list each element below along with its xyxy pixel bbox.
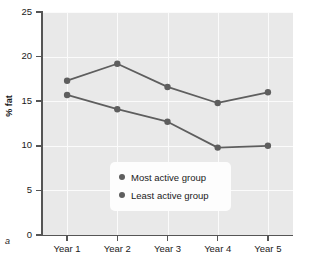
y-tick-mark xyxy=(36,190,41,192)
legend-item: Least active group xyxy=(119,186,231,204)
x-tick-mark xyxy=(217,236,219,241)
y-tick-mark xyxy=(36,56,41,58)
y-tick-mark xyxy=(36,100,41,102)
panel-letter: a xyxy=(5,236,10,247)
x-tick-mark xyxy=(66,236,68,241)
gridline-vertical xyxy=(268,12,269,235)
gridline-vertical xyxy=(67,12,68,235)
y-tick-label: 15 xyxy=(2,96,32,106)
legend-label: Most active group xyxy=(131,172,206,183)
y-tick-mark xyxy=(36,11,41,13)
y-axis-line xyxy=(41,11,43,236)
x-tick-label: Year 5 xyxy=(238,243,298,254)
y-tick-label: 25 xyxy=(2,7,32,17)
x-tick-mark xyxy=(117,236,119,241)
legend-marker-icon xyxy=(119,174,125,180)
y-tick-mark xyxy=(36,234,41,236)
x-tick-mark xyxy=(267,236,269,241)
y-tick-label: 10 xyxy=(2,140,32,150)
y-axis-title: % fat xyxy=(4,76,14,136)
fat-percentage-line-chart: % fat 0510152025 Year 1Year 2Year 3Year … xyxy=(0,0,315,261)
y-tick-label: 5 xyxy=(2,185,32,195)
legend-marker-icon xyxy=(119,192,125,198)
x-tick-mark xyxy=(167,236,169,241)
chart-legend: Most active group Least active group xyxy=(110,162,231,211)
legend-label: Least active group xyxy=(131,190,209,201)
legend-item: Most active group xyxy=(119,168,231,186)
y-tick-mark xyxy=(36,145,41,147)
y-tick-label: 20 xyxy=(2,51,32,61)
